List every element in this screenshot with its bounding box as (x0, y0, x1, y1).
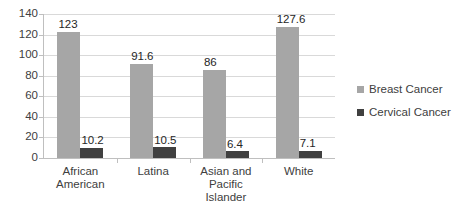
bar-value-label: 10.5 (154, 135, 176, 147)
bar-group: 866.4 (190, 14, 263, 158)
category-label-line: White (262, 165, 335, 178)
bar-breast-cancer[interactable] (130, 64, 153, 158)
legend-label: Cervical Cancer (369, 107, 451, 119)
category-label-line: Asian and (190, 165, 263, 178)
bar-group: 91.610.5 (117, 14, 190, 158)
bar-value-label: 7.1 (300, 138, 316, 150)
bar-group: 12310.2 (44, 14, 117, 158)
bar-value-label: 123 (58, 19, 77, 31)
category-label-line: African (44, 165, 117, 178)
x-axis-category-label: Latina (117, 165, 190, 178)
bar-group: 127.67.1 (262, 14, 335, 158)
y-tick-mark (39, 14, 44, 15)
category-label-line: Islander (190, 191, 263, 204)
bar-value-label: 6.4 (227, 139, 243, 151)
bar-value-label: 86 (204, 57, 217, 69)
bar-breast-cancer[interactable] (203, 70, 226, 158)
legend: Breast CancerCervical Cancer (357, 84, 456, 129)
bar-cervical-cancer[interactable] (153, 147, 176, 158)
bar-value-label: 127.6 (277, 14, 306, 26)
legend-item[interactable]: Cervical Cancer (357, 107, 456, 119)
category-separator (190, 158, 191, 163)
y-tick-label: 40 (2, 111, 38, 123)
y-tick-label: 20 (2, 131, 38, 143)
y-axis: 140120100806040200 (0, 0, 38, 211)
category-label-line: Pacific (190, 178, 263, 191)
y-tick-mark (39, 137, 44, 138)
bar-chart: 140120100806040200 12310.291.610.5866.41… (0, 0, 456, 211)
category-label-line: American (44, 178, 117, 191)
plot-area: 12310.291.610.5866.4127.67.1 (44, 14, 335, 158)
y-tick-mark (39, 35, 44, 36)
legend-label: Breast Cancer (369, 84, 443, 96)
y-tick-label: 60 (2, 90, 38, 102)
bar-value-label: 10.2 (81, 135, 103, 147)
y-tick-mark (39, 76, 44, 77)
x-axis-category-label: AfricanAmerican (44, 165, 117, 191)
bar-cervical-cancer[interactable] (80, 148, 103, 158)
y-tick-label: 120 (2, 29, 38, 41)
x-axis-category-label: White (262, 165, 335, 178)
y-tick-label: 0 (2, 152, 38, 164)
y-tick-mark (39, 96, 44, 97)
bar-value-label: 91.6 (131, 51, 153, 63)
legend-swatch-icon (357, 86, 364, 93)
y-tick-mark (39, 55, 44, 56)
bar-breast-cancer[interactable] (57, 32, 80, 159)
x-axis-category-label: Asian andPacificIslander (190, 165, 263, 204)
legend-item[interactable]: Breast Cancer (357, 84, 456, 96)
y-tick-mark (39, 117, 44, 118)
category-label-line: Latina (117, 165, 190, 178)
category-separator (117, 158, 118, 163)
y-tick-label: 100 (2, 49, 38, 61)
bar-cervical-cancer[interactable] (299, 151, 322, 158)
y-tick-label: 140 (2, 8, 38, 20)
y-tick-mark (39, 158, 44, 159)
legend-swatch-icon (357, 109, 364, 116)
y-tick-label: 80 (2, 70, 38, 82)
bar-cervical-cancer[interactable] (226, 151, 249, 158)
bar-breast-cancer[interactable] (276, 27, 299, 158)
category-separator (262, 158, 263, 163)
